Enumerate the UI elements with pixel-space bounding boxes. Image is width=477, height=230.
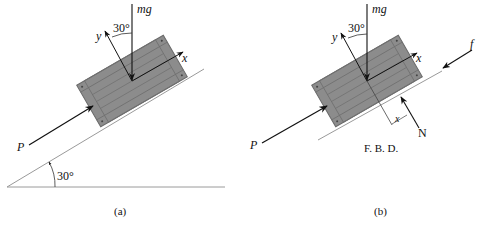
figure-b: mg y x 30° f N x P F. B. D. (b) (249, 2, 475, 218)
friction-arrow (443, 50, 472, 68)
push-force-arrow-fbd (262, 106, 327, 143)
weight-label: mg (137, 2, 152, 16)
incline-angle-arc (49, 162, 55, 187)
push-force-label: P (16, 140, 25, 154)
y-axis-label-fbd: y (331, 30, 338, 44)
force-angle-label-fbd: 30° (348, 21, 365, 35)
diagram-canvas: 30° mg y x 30° P (a) mg y x 30° f N x P (0, 0, 477, 230)
fbd-title: F. B. D. (364, 142, 399, 154)
caption-b: (b) (374, 205, 387, 218)
caption-a: (a) (114, 205, 127, 218)
friction-label: f (470, 37, 475, 51)
offset-label: x (394, 113, 400, 124)
force-angle-label: 30° (113, 21, 130, 35)
figure-a: 30° mg y x 30° P (a) (7, 2, 225, 218)
normal-label: N (418, 126, 427, 140)
incline-angle-label: 30° (57, 169, 74, 183)
y-axis-label: y (95, 29, 102, 43)
x-axis-label: x (181, 51, 188, 65)
push-force-arrow (29, 106, 93, 145)
weight-label-fbd: mg (372, 2, 387, 16)
push-force-label-fbd: P (249, 138, 258, 152)
normal-arrow (401, 97, 419, 128)
x-axis-label-fbd: x (415, 51, 422, 65)
